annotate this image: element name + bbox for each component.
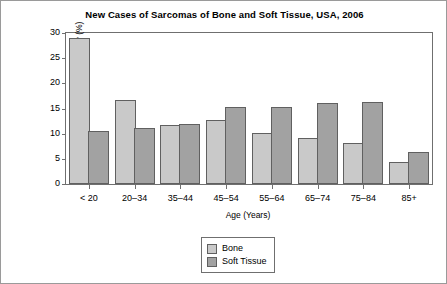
figure-frame: New Cases of Sarcomas of Bone and Soft T… <box>0 0 447 284</box>
bar-bone <box>115 100 136 184</box>
bar-soft-tissue <box>317 103 338 184</box>
chart-legend: BoneSoft Tissue <box>201 237 275 273</box>
bar-soft-tissue <box>225 107 246 184</box>
x-tick-mark <box>363 184 364 189</box>
x-tick-mark <box>409 184 410 189</box>
bar-bone <box>389 162 410 184</box>
y-tick-label: 20 <box>38 78 60 87</box>
x-tick-label: 85+ <box>379 193 439 203</box>
y-tick-label: 25 <box>38 53 60 62</box>
y-tick-label: 5 <box>38 154 60 163</box>
bar-bone <box>343 143 364 184</box>
legend-swatch-icon <box>207 244 217 254</box>
bar-soft-tissue <box>134 128 155 184</box>
bar-bone <box>206 120 227 184</box>
x-tick-mark <box>318 184 319 189</box>
legend-label: Bone <box>222 243 243 254</box>
x-tick-mark <box>226 184 227 189</box>
bar-bone <box>69 38 90 184</box>
bar-group <box>206 33 246 184</box>
x-tick-mark <box>89 184 90 189</box>
bar-soft-tissue <box>88 131 109 184</box>
y-tick-label: 10 <box>38 129 60 138</box>
bar-group <box>343 33 383 184</box>
y-tick-label: 30 <box>38 28 60 37</box>
bar-bone <box>298 138 319 184</box>
bar-soft-tissue <box>179 124 200 184</box>
y-tick-mark <box>62 184 66 185</box>
x-tick-mark <box>180 184 181 189</box>
bar-bone <box>252 133 273 184</box>
legend-label: Soft Tissue <box>222 256 267 267</box>
bar-soft-tissue <box>271 107 292 184</box>
x-tick-mark <box>272 184 273 189</box>
y-tick-label: 0 <box>38 179 60 188</box>
bar-bone <box>160 125 181 184</box>
bars-layer <box>66 33 432 184</box>
y-tick-label: 15 <box>38 104 60 113</box>
plot-area: Relative Frequency (%) 051015202530 < 20… <box>65 32 433 185</box>
bar-group <box>252 33 292 184</box>
legend-item: Bone <box>207 242 267 255</box>
x-axis-title: Age (Years) <box>65 210 431 220</box>
bar-group <box>69 33 109 184</box>
legend-item: Soft Tissue <box>207 255 267 268</box>
chart-title: New Cases of Sarcomas of Bone and Soft T… <box>1 9 447 20</box>
bar-soft-tissue <box>408 152 429 184</box>
bar-group <box>389 33 429 184</box>
bar-group <box>160 33 200 184</box>
bar-soft-tissue <box>362 102 383 184</box>
bar-group <box>115 33 155 184</box>
x-tick-mark <box>135 184 136 189</box>
bar-group <box>298 33 338 184</box>
legend-swatch-icon <box>207 257 217 267</box>
